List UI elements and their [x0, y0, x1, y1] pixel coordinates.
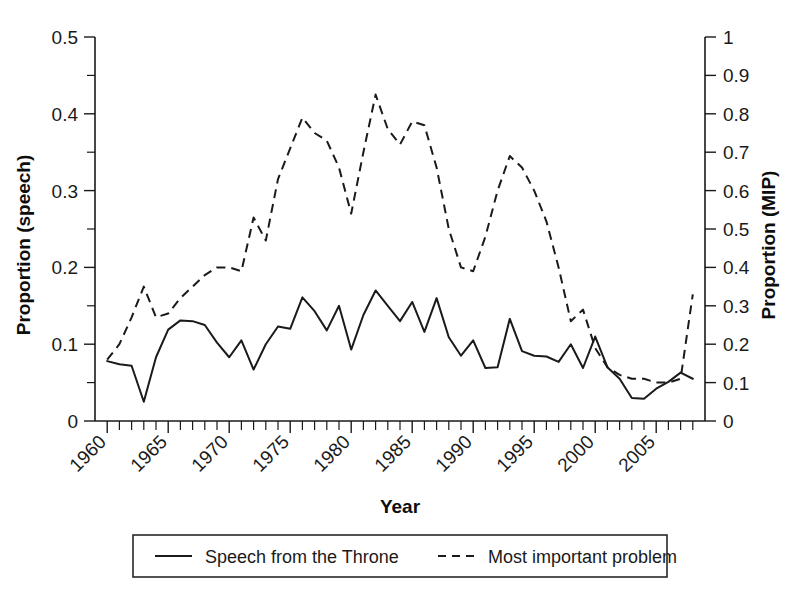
x-axis-labels: 1960196519701975198019851990199520002005	[65, 431, 659, 476]
axis-group	[95, 37, 705, 421]
chart-page: 00.10.20.30.40.5 00.10.20.30.40.50.60.70…	[0, 0, 800, 599]
x-tick-label: 1980	[309, 431, 354, 476]
y-tick-label-right: 0.3	[723, 296, 749, 317]
y-tick-label-right: 1	[723, 27, 734, 48]
y-tick-label-left: 0.3	[52, 181, 78, 202]
y-tick-label-left: 0.4	[52, 104, 79, 125]
legend: Speech from the Throne Most important pr…	[133, 535, 677, 577]
x-tick-label: 1965	[126, 431, 171, 476]
legend-label-mip: Most important problem	[488, 547, 677, 567]
x-tick-label: 1985	[370, 431, 415, 476]
y-tick-label-left: 0	[67, 411, 78, 432]
x-tick-label: 2000	[553, 431, 598, 476]
x-tick-label: 1975	[248, 431, 293, 476]
y-tick-label-left: 0.1	[52, 334, 78, 355]
y-tick-label-left: 0.5	[52, 27, 78, 48]
series-most-important-problem	[107, 95, 693, 383]
y-tick-label-right: 0.4	[723, 257, 750, 278]
legend-label-speech: Speech from the Throne	[205, 547, 399, 567]
y-axis-left-title: Proportion (speech)	[13, 155, 34, 336]
y-tick-label-right: 0.2	[723, 334, 749, 355]
y-tick-label-right: 0.8	[723, 104, 749, 125]
y-tick-label-right: 0	[723, 411, 734, 432]
line-chart: 00.10.20.30.40.5 00.10.20.30.40.50.60.70…	[0, 0, 800, 599]
x-tick-label: 1970	[187, 431, 232, 476]
x-axis-title: Year	[380, 496, 421, 517]
series-speech-from-the-throne	[107, 290, 693, 401]
x-tick-label: 1990	[431, 431, 476, 476]
y-tick-label-right: 0.5	[723, 219, 749, 240]
x-tick-label: 1960	[65, 431, 110, 476]
y-axis-right-title: Proportion (MIP)	[758, 171, 779, 320]
y-tick-label-right: 0.7	[723, 142, 749, 163]
y-axis-right-ticks	[705, 37, 716, 421]
x-tick-label: 1995	[492, 431, 537, 476]
y-tick-label-right: 0.9	[723, 65, 749, 86]
y-axis-right-labels: 00.10.20.30.40.50.60.70.80.91	[723, 27, 750, 432]
y-tick-label-right: 0.1	[723, 373, 749, 394]
x-tick-label: 2005	[614, 431, 659, 476]
y-tick-label-right: 0.6	[723, 181, 749, 202]
y-tick-label-left: 0.2	[52, 257, 78, 278]
y-axis-left-labels: 00.10.20.30.40.5	[52, 27, 79, 432]
y-axis-left-ticks	[84, 37, 95, 421]
